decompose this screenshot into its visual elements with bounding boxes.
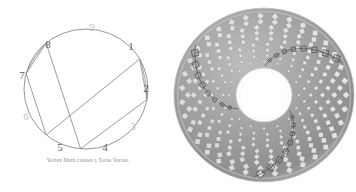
torus-tile bbox=[205, 150, 210, 155]
torus-tile bbox=[318, 132, 323, 137]
figure-caption: Vortex Math creates a Torus Vortex. bbox=[0, 157, 176, 163]
edge-7-5 bbox=[26, 73, 46, 134]
torus-tile bbox=[226, 56, 230, 60]
torus-tile bbox=[228, 63, 231, 66]
node-label-6: 6 bbox=[23, 110, 29, 122]
figure-canvas: 123456789 Vortex Math creates a Torus Vo… bbox=[0, 0, 356, 192]
vortex-diagram-svg: 123456789 bbox=[0, 0, 176, 192]
torus-tile bbox=[218, 130, 222, 134]
torus-tile bbox=[312, 154, 318, 160]
node-label-4: 4 bbox=[102, 141, 108, 153]
node-label-9: 9 bbox=[89, 21, 95, 33]
torus-tile bbox=[216, 137, 220, 141]
node-label-1: 1 bbox=[128, 40, 134, 52]
node-label-8: 8 bbox=[45, 38, 51, 50]
torus-tile bbox=[309, 42, 314, 47]
torus-tile bbox=[195, 139, 201, 145]
torus-tile bbox=[205, 132, 210, 137]
torus-tile bbox=[323, 144, 328, 149]
torus-tile bbox=[306, 130, 310, 134]
torus-tile bbox=[218, 56, 222, 60]
node-label-2: 2 bbox=[143, 82, 149, 94]
torus-tile bbox=[226, 130, 230, 134]
torus-tile bbox=[303, 61, 307, 65]
torus-tile bbox=[288, 118, 290, 120]
edge-5-1 bbox=[46, 59, 140, 135]
torus-tile bbox=[216, 49, 220, 53]
torus-svg bbox=[172, 2, 356, 192]
torus-tile bbox=[309, 143, 314, 148]
torus-tile bbox=[323, 40, 328, 45]
node-label-3: 3 bbox=[130, 120, 136, 132]
torus-illustration bbox=[172, 2, 356, 192]
torus-tile bbox=[312, 30, 318, 36]
torus-tile bbox=[238, 118, 240, 120]
torus-center-hole bbox=[236, 68, 292, 122]
torus-tile bbox=[303, 125, 307, 129]
node-label-5: 5 bbox=[57, 141, 63, 153]
torus-tile bbox=[206, 42, 211, 47]
edge-4-8 bbox=[46, 43, 80, 149]
torus-tile bbox=[291, 58, 294, 61]
node-label-7: 7 bbox=[19, 69, 25, 81]
torus-tile bbox=[206, 143, 211, 148]
edge-2-4 bbox=[81, 99, 147, 148]
torus-tile bbox=[215, 42, 220, 47]
torus-tile bbox=[228, 124, 231, 127]
number-labels: 123456789 bbox=[19, 21, 149, 153]
torus-tile bbox=[215, 143, 220, 148]
edge-8-7 bbox=[26, 43, 46, 73]
torus-tile bbox=[205, 35, 210, 40]
torus-tile bbox=[290, 65, 293, 68]
torus-tile bbox=[288, 70, 290, 72]
torus-tile bbox=[307, 137, 311, 141]
torus-tile bbox=[321, 138, 326, 143]
torus-tile bbox=[238, 70, 240, 72]
vortex-diagram: 123456789 Vortex Math creates a Torus Vo… bbox=[0, 0, 176, 192]
torus-tile bbox=[205, 53, 210, 58]
torus-tile bbox=[311, 148, 316, 153]
torus-tile bbox=[311, 37, 316, 42]
torus-tile bbox=[306, 56, 310, 60]
